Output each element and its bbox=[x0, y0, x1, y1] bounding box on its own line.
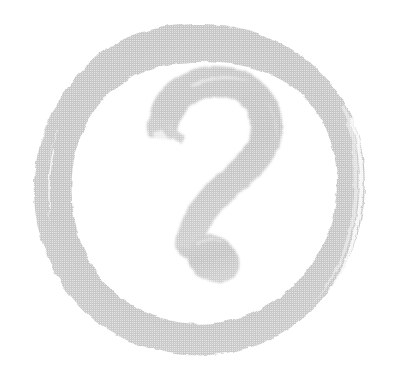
image-canvas: A light gray ink-brush circle, painted i… bbox=[0, 0, 399, 377]
question-mark-brush-circle-illustration: Question mark inside hand-painted brush … bbox=[0, 0, 399, 377]
